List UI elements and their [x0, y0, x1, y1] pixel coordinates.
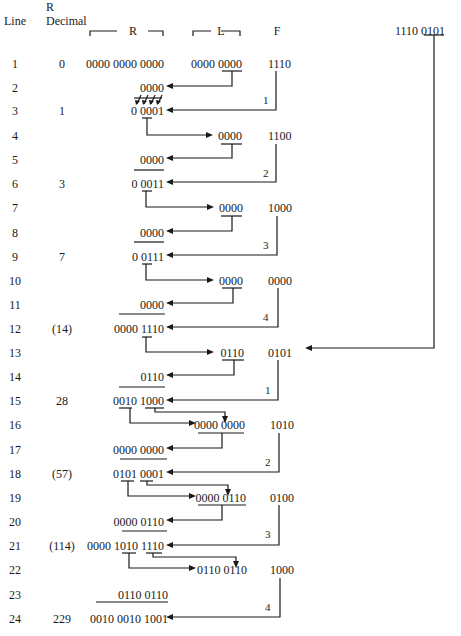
diagram-wires [0, 0, 461, 636]
